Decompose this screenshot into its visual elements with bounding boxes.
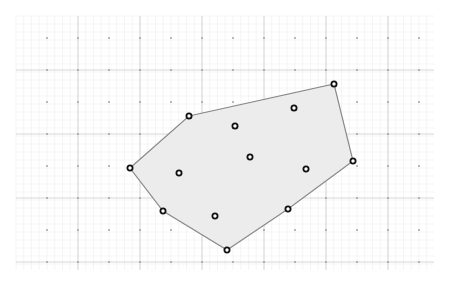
grid-dot xyxy=(356,101,358,103)
grid-dot xyxy=(263,69,265,71)
grid-dot xyxy=(263,261,265,263)
grid-dot xyxy=(232,261,234,263)
grid-dot xyxy=(232,37,234,39)
interior-point xyxy=(247,154,252,159)
grid-dot xyxy=(356,69,358,71)
grid-dot xyxy=(325,261,327,263)
grid-dot xyxy=(170,69,172,71)
hull-vertex-point xyxy=(224,247,229,252)
grid-dot xyxy=(201,261,203,263)
grid-dot xyxy=(77,37,79,39)
grid-dot xyxy=(108,133,110,135)
grid-dot xyxy=(325,69,327,71)
grid-dot xyxy=(356,197,358,199)
grid-dot xyxy=(77,101,79,103)
grid-dot xyxy=(139,69,141,71)
grid-dot xyxy=(170,37,172,39)
interior-point xyxy=(291,105,296,110)
grid-dot xyxy=(387,69,389,71)
grid-dot xyxy=(418,165,420,167)
hull-vertex-point xyxy=(127,165,132,170)
grid-dot xyxy=(170,101,172,103)
grid-dot xyxy=(294,37,296,39)
grid-dot xyxy=(418,261,420,263)
interior-point xyxy=(212,213,217,218)
grid-dot xyxy=(387,197,389,199)
grid-dot xyxy=(46,261,48,263)
grid-dot xyxy=(356,229,358,231)
grid-dot xyxy=(387,37,389,39)
grid-dot xyxy=(108,229,110,231)
grid-dot xyxy=(356,133,358,135)
interior-point xyxy=(303,166,308,171)
grid-dot xyxy=(77,133,79,135)
hull-vertex-point xyxy=(350,158,355,163)
diagram-canvas xyxy=(0,0,462,289)
grid-dot xyxy=(46,229,48,231)
hull-vertex-point xyxy=(186,113,191,118)
grid-dot xyxy=(263,229,265,231)
grid-dot xyxy=(418,133,420,135)
grid-dot xyxy=(201,69,203,71)
hull-vertex-point xyxy=(331,81,336,86)
grid-dot xyxy=(356,165,358,167)
grid-dot xyxy=(263,37,265,39)
interior-point xyxy=(232,123,237,128)
grid-dot xyxy=(387,229,389,231)
grid-dot xyxy=(77,197,79,199)
grid-dot xyxy=(325,197,327,199)
grid-dot xyxy=(139,101,141,103)
grid-dot xyxy=(325,37,327,39)
grid-dot xyxy=(46,69,48,71)
grid-dot xyxy=(232,69,234,71)
grid-dot xyxy=(387,101,389,103)
convex-hull-diagram xyxy=(0,0,462,289)
hull-vertex-point xyxy=(160,208,165,213)
grid-dot xyxy=(201,101,203,103)
grid-dot xyxy=(170,261,172,263)
grid-dot xyxy=(418,197,420,199)
grid-dot xyxy=(418,101,420,103)
grid-dot xyxy=(77,69,79,71)
grid-dot xyxy=(356,37,358,39)
hull-vertex-point xyxy=(285,206,290,211)
grid-dot xyxy=(46,101,48,103)
grid-dot xyxy=(201,37,203,39)
interior-point xyxy=(176,170,181,175)
grid-dot xyxy=(108,261,110,263)
grid-dot xyxy=(387,261,389,263)
grid-dot xyxy=(108,197,110,199)
grid-dot xyxy=(139,261,141,263)
grid-dot xyxy=(108,69,110,71)
grid-dot xyxy=(170,229,172,231)
grid-dot xyxy=(46,197,48,199)
grid-dot xyxy=(108,37,110,39)
grid-dot xyxy=(294,69,296,71)
grid-dot xyxy=(139,37,141,39)
grid-dot xyxy=(418,37,420,39)
grid-dot xyxy=(325,229,327,231)
grid-dot xyxy=(77,261,79,263)
grid-dot xyxy=(139,133,141,135)
grid-dot xyxy=(46,133,48,135)
grid-dot xyxy=(108,165,110,167)
grid-dot xyxy=(77,165,79,167)
grid-dot xyxy=(139,229,141,231)
grid-dot xyxy=(108,101,110,103)
grid-dot xyxy=(356,261,358,263)
grid-dot xyxy=(46,165,48,167)
grid-dot xyxy=(418,229,420,231)
grid-dot xyxy=(387,165,389,167)
grid-dot xyxy=(418,69,420,71)
grid-dot xyxy=(294,261,296,263)
grid-dot xyxy=(139,197,141,199)
grid-dot xyxy=(294,229,296,231)
grid-dot xyxy=(77,229,79,231)
grid-dot xyxy=(232,101,234,103)
grid-dot xyxy=(46,37,48,39)
grid-dot xyxy=(387,133,389,135)
